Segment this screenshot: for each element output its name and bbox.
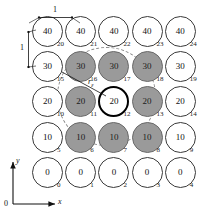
coordinate-axes — [13, 162, 55, 204]
radius-subscript: ε — [91, 82, 93, 88]
horizontal-dimension-arrow — [29, 18, 80, 24]
vertical-dimension-arrow — [29, 30, 37, 67]
origin-label: 0 — [4, 200, 8, 208]
y-axis-label: y — [16, 157, 20, 165]
vertical-dimension-label: 1 — [20, 44, 24, 52]
radius-label: rε — [88, 78, 94, 88]
horizontal-dimension-label: 1 — [53, 6, 57, 14]
figure-canvas: 4020402140224023402430153016301730183019… — [0, 0, 207, 218]
annotation-overlay — [0, 0, 207, 218]
x-axis-label: x — [58, 198, 62, 206]
radius-leader-line — [62, 72, 106, 96]
